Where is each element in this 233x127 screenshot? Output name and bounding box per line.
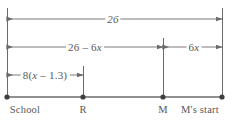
point-dot-mstart (219, 94, 224, 99)
measure-label-total: 26 (105, 13, 120, 25)
point-label-school: School (10, 104, 40, 116)
point-label-m: M (158, 104, 168, 116)
point-label-r: R (79, 104, 86, 116)
measure-label-school-to-m: 26 – 6x (66, 41, 104, 53)
measure-label-school-to-r: 8(x – 1.3) (21, 69, 70, 81)
measure-label-m-to-mstart: 6x (187, 41, 202, 53)
number-line-diagram: 2626 – 6x6x8(x – 1.3) SchoolRMM's start (0, 0, 233, 127)
point-dot-m (160, 94, 165, 99)
point-dot-school (4, 94, 9, 99)
point-dot-r (80, 94, 85, 99)
point-label-mstart: M's start (181, 104, 219, 116)
